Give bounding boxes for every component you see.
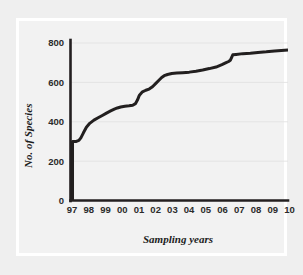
y-tick-label-0: 0 [59,195,64,206]
y-axis-title: No. of Species [22,104,34,169]
x-tick-labels: 9798990001020304050607080910 [67,204,295,215]
x-tick-label-98: 98 [83,204,94,215]
x-tick-label-02: 02 [150,204,161,215]
x-tick-label-08: 08 [251,204,262,215]
x-tick-label-04: 04 [184,204,195,215]
x-tick-label-03: 03 [167,204,178,215]
species-accumulation-chart: 0200400600800 97989900010203040506070809… [0,0,303,275]
y-tick-label-600: 600 [48,77,64,88]
x-axis-title: Sampling years [143,233,213,245]
x-tick-label-00: 00 [117,204,128,215]
chart-svg: 0200400600800 97989900010203040506070809… [0,0,303,275]
y-tick-label-400: 400 [48,116,64,127]
y-tick-labels: 0200400600800 [48,37,64,206]
y-tick-label-800: 800 [48,37,64,48]
x-tick-label-01: 01 [134,204,145,215]
x-tick-label-99: 99 [100,204,111,215]
x-tick-label-05: 05 [201,204,212,215]
x-tick-label-10: 10 [284,204,295,215]
x-tick-label-09: 09 [267,204,278,215]
x-tick-label-97: 97 [67,204,78,215]
x-tick-label-07: 07 [234,204,245,215]
y-tick-label-200: 200 [48,156,64,167]
species-accumulation-curve [73,50,288,200]
x-tick-label-06: 06 [217,204,228,215]
gridlines [71,43,289,201]
